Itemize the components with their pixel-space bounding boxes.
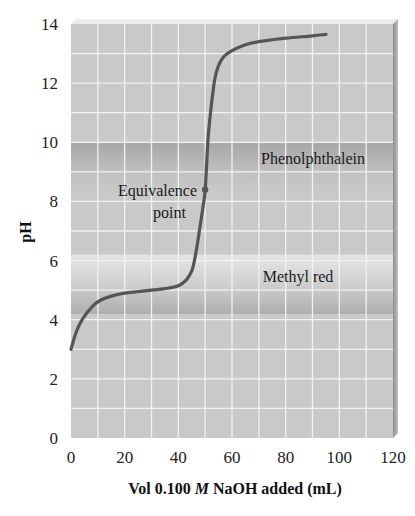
phenolphthalein-label: Phenolphthalein [261, 150, 365, 168]
y-tick-label: 0 [50, 429, 59, 448]
x-axis-title-prefix: Vol 0.100 [128, 480, 195, 497]
x-axis-title-suffix: NaOH added (mL) [209, 480, 342, 498]
y-axis-title: pH [17, 221, 35, 243]
x-tick-label: 20 [116, 448, 133, 467]
x-tick-label: 0 [67, 448, 76, 467]
y-tick-label: 2 [50, 370, 59, 389]
y-tick-label: 4 [50, 311, 59, 330]
y-axis-ticks: 02468101214 [41, 15, 59, 448]
equivalence-label-line1: Equivalence [118, 182, 197, 200]
y-tick-label: 14 [41, 15, 59, 34]
x-tick-label: 40 [170, 448, 187, 467]
y-tick-label: 10 [41, 133, 58, 152]
x-tick-label: 100 [327, 448, 353, 467]
x-axis-ticks: 020406080100120 [67, 448, 406, 467]
x-axis-title: Vol 0.100 M NaOH added (mL) [128, 480, 342, 498]
methyl-red-label: Methyl red [263, 268, 334, 286]
y-tick-label: 12 [41, 74, 58, 93]
x-tick-label: 60 [224, 448, 241, 467]
x-axis-title-molar: M [194, 480, 210, 497]
x-tick-label: 80 [277, 448, 294, 467]
y-tick-label: 6 [50, 252, 59, 271]
equivalence-point-marker [202, 186, 208, 192]
x-tick-label: 120 [380, 448, 406, 467]
equivalence-label-line2: point [153, 204, 186, 222]
titration-chart: Phenolphthalein Methyl red Equivalence p… [0, 0, 415, 516]
y-tick-label: 8 [50, 192, 59, 211]
